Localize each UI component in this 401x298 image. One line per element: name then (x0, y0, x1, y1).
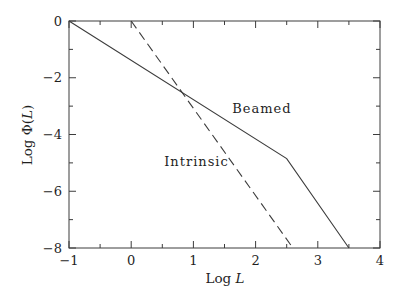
chart-canvas: −1012340−2−4−6−8 (0, 0, 401, 298)
x-tick-label: 2 (251, 253, 259, 268)
y-axis-label: LogΦ(L) (19, 105, 35, 166)
luminosity-function-figure: −1012340−2−4−6−8 Beamed Intrinsic LogL L… (0, 0, 401, 298)
y-axis-label-word: Log (19, 140, 35, 166)
y-axis-label-variable: L (19, 110, 35, 119)
series-label-intrinsic: Intrinsic (164, 154, 229, 169)
x-axis-label-variable: L (236, 270, 245, 286)
y-tick-label: 0 (54, 14, 62, 29)
plot-frame (69, 21, 380, 248)
series-line-intrinsic (131, 21, 293, 248)
y-tick-label: −6 (43, 184, 62, 199)
x-tick-label: −1 (59, 253, 78, 268)
y-tick-label: −2 (43, 70, 62, 85)
x-tick-label: 0 (127, 253, 135, 268)
series-line-beamed (69, 21, 349, 248)
x-tick-label: 4 (376, 253, 384, 268)
x-tick-label: 1 (189, 253, 197, 268)
x-axis-label: LogL (205, 270, 244, 286)
y-axis-label-close: ) (19, 105, 35, 110)
series-label-beamed: Beamed (232, 100, 291, 115)
x-axis-label-word: Log (205, 270, 231, 286)
y-tick-label: −4 (43, 127, 62, 142)
x-tick-label: 3 (314, 253, 322, 268)
y-axis-label-function: Φ( (19, 119, 35, 135)
y-tick-label: −8 (43, 241, 62, 256)
